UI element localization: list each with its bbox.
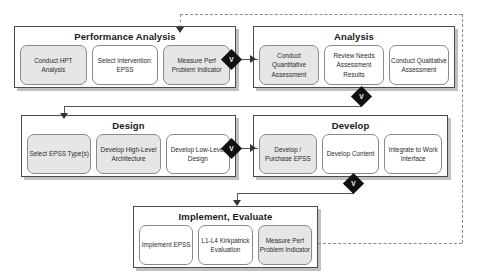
step-label: Develop Content (327, 149, 375, 158)
phase-title-design: Design (22, 120, 235, 131)
step-select-epss-types[interactable]: Select EPSS Type(s) (27, 134, 91, 174)
connector-analysis-to-design-diamond (351, 86, 372, 107)
phase-analysis: Analysis Conduct Quantitative Assessment… (253, 26, 455, 88)
step-develop-purchase-epss[interactable]: Develop / Purchase EPSS (259, 134, 317, 174)
step-conduct-qualitative-assessment[interactable]: Conduct Qualitative Assessment (389, 45, 449, 85)
feedback-line-right (462, 14, 463, 243)
step-label: Conduct HPT Analysis (22, 56, 85, 75)
step-measure-perf-problem-indicator-bottom[interactable]: Measure Perf Problem Indicator (258, 225, 312, 265)
step-measure-perf-problem-indicator-top[interactable]: Measure Perf Problem Indicator (163, 45, 230, 85)
step-label: Select EPSS Type(s) (29, 149, 89, 158)
phase-develop: Develop Develop / Purchase EPSS Develop … (253, 115, 448, 177)
phase-steps-implement-evaluate: Implement EPSS L1-L4 Kirkpatrick Evaluat… (134, 222, 317, 266)
step-l1-l4-kirkpatrick-evaluation[interactable]: L1-L4 Kirkpatrick Evaluation (198, 225, 252, 265)
connector-analysis-to-design-arrow (60, 113, 68, 119)
phase-title-implement-evaluate: Implement, Evaluate (134, 211, 317, 222)
step-label: L1-L4 Kirkpatrick Evaluation (200, 236, 250, 255)
step-implement-epss[interactable]: Implement EPSS (139, 225, 193, 265)
step-label: Review Needs Assessment Results (326, 51, 382, 79)
phase-performance-analysis: Performance Analysis Conduct HPT Analysi… (14, 26, 236, 88)
step-label: Integrate to Work Interface (386, 145, 440, 164)
step-conduct-quantitative-assessment[interactable]: Conduct Quantitative Assessment (259, 45, 319, 85)
step-label: Conduct Quantitative Assessment (261, 51, 317, 79)
connector-analysis-to-design-horiz (64, 106, 362, 107)
connector-develop-to-implement-horiz (237, 193, 354, 194)
phase-title-performance-analysis: Performance Analysis (15, 31, 235, 42)
phase-steps-analysis: Conduct Quantitative Assessment Review N… (254, 42, 454, 86)
phase-title-develop: Develop (254, 120, 447, 131)
step-label: Measure Perf Problem Indicator (165, 56, 228, 75)
step-label: Develop / Purchase EPSS (261, 145, 315, 164)
phase-design: Design Select EPSS Type(s) Develop High-… (21, 115, 236, 177)
step-review-needs-assessment-results[interactable]: Review Needs Assessment Results (324, 45, 384, 85)
connector-develop-to-implement-arrow (233, 200, 241, 206)
step-conduct-hpt-analysis[interactable]: Conduct HPT Analysis (20, 45, 87, 85)
connector-pa-to-analysis-arrow (250, 55, 256, 63)
step-label: Develop Low-Level Design (168, 145, 228, 164)
step-select-intervention-epss[interactable]: Select Intervention: EPSS (92, 45, 159, 85)
step-label: Select Intervention: EPSS (94, 56, 157, 75)
step-develop-high-level-architecture[interactable]: Develop High-Level Architecture (96, 134, 160, 174)
phase-steps-performance-analysis: Conduct HPT Analysis Select Intervention… (15, 42, 235, 86)
step-label: Implement EPSS (142, 240, 191, 249)
phase-title-analysis: Analysis (254, 31, 454, 42)
step-label: Conduct Qualitative Assessment (391, 56, 447, 75)
step-integrate-to-work-interface[interactable]: Integrate to Work Interface (384, 134, 442, 174)
phase-steps-design: Select EPSS Type(s) Develop High-Level A… (22, 131, 235, 175)
step-label: Develop High-Level Architecture (98, 145, 158, 164)
step-label: Measure Perf Problem Indicator (260, 236, 310, 255)
feedback-line-bottom (318, 243, 462, 244)
feedback-line-top-left-drop (180, 14, 181, 28)
feedback-line-top (180, 14, 462, 15)
connector-design-to-develop-arrow (250, 144, 256, 152)
phase-implement-evaluate: Implement, Evaluate Implement EPSS L1-L4… (133, 206, 318, 268)
diagram-canvas: V V V V Performance Analysis Conduct HPT… (0, 0, 482, 278)
phase-steps-develop: Develop / Purchase EPSS Develop Content … (254, 131, 447, 175)
step-develop-content[interactable]: Develop Content (322, 134, 380, 174)
step-develop-low-level-design[interactable]: Develop Low-Level Design (166, 134, 230, 174)
feedback-arrow-into-performance-analysis (176, 27, 184, 33)
